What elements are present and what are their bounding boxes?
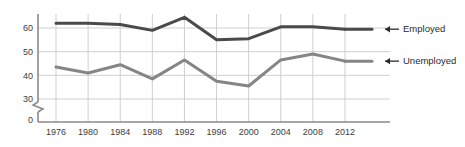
y-tick-label-60: 60 [23,23,33,33]
x-tick-label-2000: 2000 [239,127,259,137]
x-tick-label-2008: 2008 [303,127,323,137]
legend-label-unemployed: Unemployed [403,55,456,66]
x-tick-label-1984: 1984 [110,127,130,137]
x-tick-label-1976: 1976 [46,127,66,137]
legend-label-employed: Employed [403,23,445,34]
y-tick-label-0: 0 [28,115,33,125]
x-tick-label-1980: 1980 [78,127,98,137]
y-tick-label-30: 30 [23,94,33,104]
x-tick-label-1992: 1992 [174,127,194,137]
x-tick-label-1988: 1988 [142,127,162,137]
x-tick-label-1996: 1996 [207,127,227,137]
x-tick-label-2004: 2004 [271,127,291,137]
y-tick-label-40: 40 [23,71,33,81]
y-tick-label-50: 50 [23,47,33,57]
chart-canvas: 030405060 197619801984198819921996200020… [0,0,465,147]
line-chart: 030405060 197619801984198819921996200020… [0,0,465,147]
x-tick-label-2012: 2012 [335,127,355,137]
